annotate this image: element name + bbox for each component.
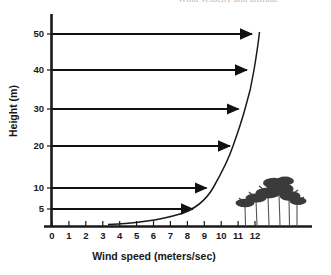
y-tick-label-10: 10 (16, 183, 44, 193)
x-axis-title: Wind speed (meters/sec) (52, 250, 256, 262)
wind-vector-arrows (52, 34, 252, 209)
y-tick-label-5: 5 (16, 204, 44, 214)
wind-profile-curve (108, 32, 260, 225)
y-tick-label-20: 20 (16, 141, 44, 151)
y-tick-label-30: 30 (16, 104, 44, 114)
x-tick-label-12: 12 (245, 231, 265, 241)
y-axis-title: Height (m) (7, 81, 19, 141)
wind-speed-height-chart: Wind velocity and altitude (0, 0, 331, 275)
y-tick-label-50: 50 (16, 29, 44, 39)
y-tick-label-40: 40 (16, 65, 44, 75)
palm-tree-cluster-illustration (236, 177, 307, 225)
